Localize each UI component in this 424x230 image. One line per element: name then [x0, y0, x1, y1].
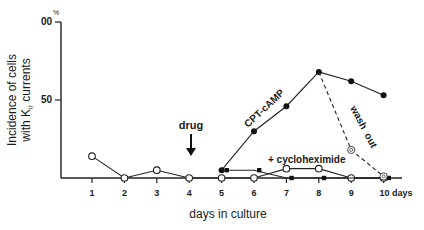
svg-text:Incidence of cells: Incidence of cells	[5, 54, 19, 146]
x-tick-label: 8	[316, 188, 321, 198]
x-axis-label: days in culture	[189, 207, 267, 221]
x-tick-label: 4	[187, 188, 192, 198]
x-tick-label: 6	[251, 188, 256, 198]
x-tick-label: 3	[154, 188, 159, 198]
y-unit-label: %	[53, 9, 59, 16]
y-axis-label: Incidence of cells with Kir currents	[5, 54, 34, 146]
x-tick-label: 1	[89, 188, 94, 198]
cycloheximide-annotation: + cycloheximide	[268, 154, 346, 165]
x-tick-label: 9	[349, 188, 354, 198]
x-tick-label: 5	[219, 188, 224, 198]
x-tick-label: 2	[122, 188, 127, 198]
y-tick-50: 50	[41, 94, 53, 105]
wash-out-annotation: wash out	[348, 103, 380, 150]
y-tick-100: 00	[41, 16, 53, 27]
svg-text:with Kir currents: with Kir currents	[19, 58, 34, 142]
arrow-down-icon	[186, 134, 196, 156]
x-tick-label: 10 days	[380, 188, 413, 198]
x-tick-label: 7	[284, 188, 289, 198]
chart: % 00 50 Incidence of cells with Kir curr…	[0, 0, 424, 230]
drug-annotation: drug	[179, 119, 203, 131]
